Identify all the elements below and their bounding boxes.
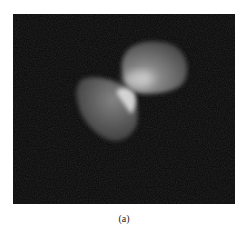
micrograph-image	[13, 14, 235, 204]
cells-illustration	[13, 14, 235, 204]
figure-caption: (a)	[0, 213, 248, 224]
